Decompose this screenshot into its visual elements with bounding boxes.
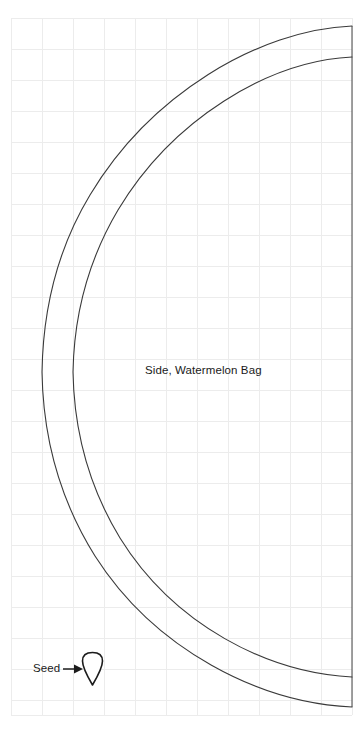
seed-shape <box>83 653 103 686</box>
arrowhead-icon <box>74 665 83 674</box>
seed-name-label: Seed <box>33 662 60 674</box>
piece-name-label: Side, Watermelon Bag <box>145 364 262 376</box>
pattern-sheet: Side, Watermelon Bag Seed <box>0 0 364 732</box>
